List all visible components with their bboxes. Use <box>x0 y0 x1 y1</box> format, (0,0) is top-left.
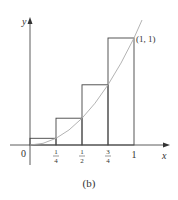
x-axis-label: x <box>161 150 167 161</box>
tick-numerator: 3 <box>106 148 110 156</box>
tick-denominator: 2 <box>80 157 84 165</box>
riemann-sum-diagram: y x 0 (1, 1) 1 4 1 2 3 4 1 <box>0 0 178 200</box>
origin-label: 0 <box>21 148 26 159</box>
tick-denominator: 4 <box>106 157 110 165</box>
y-axis-arrow-icon <box>28 17 33 24</box>
rectangle-1 <box>30 138 56 145</box>
tick-1-2: 1 2 <box>79 148 85 165</box>
rectangle-3 <box>82 85 108 145</box>
tick-numerator: 1 <box>80 148 84 156</box>
tick-3-4: 3 4 <box>105 148 111 165</box>
tick-numerator: 1 <box>54 148 58 156</box>
y-axis-label: y <box>21 16 27 27</box>
tick-1-4: 1 4 <box>53 148 59 165</box>
tick-1: 1 <box>132 149 137 160</box>
tick-denominator: 4 <box>54 157 58 165</box>
curve-y-equals-x-squared <box>30 20 142 145</box>
x-axis-arrow-icon <box>163 143 170 148</box>
rectangle-4 <box>108 38 134 145</box>
figure-caption: (b) <box>0 177 178 189</box>
point-label: (1, 1) <box>136 34 156 44</box>
rectangles <box>30 38 134 145</box>
